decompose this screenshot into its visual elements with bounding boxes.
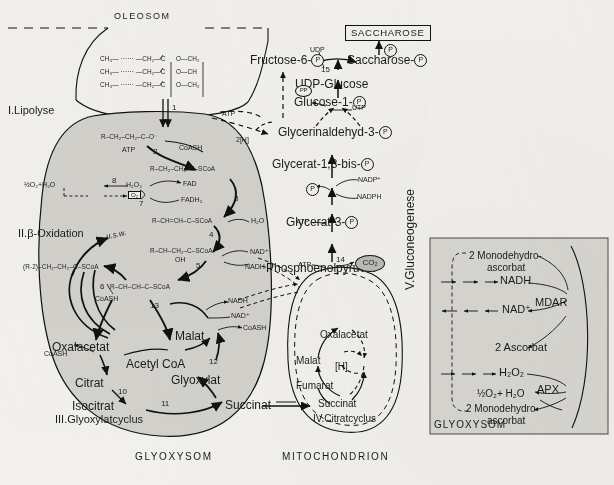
figure-canvas: OLEOSOM GLYOXYSOM MITOCHONDRION I.Lipoly… [0, 0, 614, 485]
paper-texture [0, 0, 614, 485]
